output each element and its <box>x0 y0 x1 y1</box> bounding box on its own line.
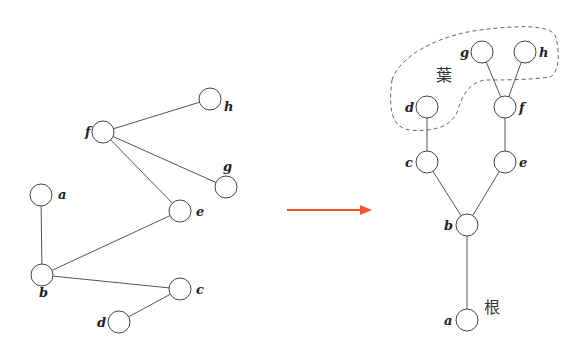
left-node-a <box>30 184 52 206</box>
left-node-label-d: d <box>97 315 106 330</box>
left-node-g <box>215 176 237 198</box>
transform-arrow <box>287 205 372 215</box>
right-node-label-d: d <box>405 100 414 115</box>
right-node-label-b: b <box>444 218 453 233</box>
right-node-b <box>456 214 478 236</box>
left-node-c <box>169 278 191 300</box>
right-node-label-c: c <box>405 155 413 170</box>
left-edge-a-b <box>41 195 42 275</box>
left-node-d <box>108 311 130 333</box>
right-node-h <box>514 41 536 63</box>
right-node-f <box>494 96 516 118</box>
diagram-canvas: abcdefgh abcdefgh 葉 根 <box>0 0 580 353</box>
right-tree-edges <box>427 52 525 320</box>
leaf-label: 葉 <box>436 66 452 85</box>
right-node-e <box>494 151 516 173</box>
left-node-label-c: c <box>196 282 204 297</box>
right-node-label-h: h <box>539 45 548 60</box>
left-node-f <box>92 121 114 143</box>
right-node-c <box>416 151 438 173</box>
left-edge-b-c <box>42 275 180 289</box>
left-node-label-h: h <box>224 99 233 114</box>
right-node-label-e: e <box>519 155 527 170</box>
left-edge-e-f <box>103 132 180 211</box>
right-node-label-g: g <box>460 45 469 60</box>
right-tree-nodes: abcdefgh <box>405 41 548 331</box>
left-node-h <box>199 88 221 110</box>
left-node-b <box>31 264 53 286</box>
right-node-g <box>471 41 493 63</box>
right-node-label-a: a <box>444 313 452 328</box>
left-node-label-e: e <box>196 204 204 219</box>
right-node-a <box>456 309 478 331</box>
arrow-head-icon <box>360 205 372 215</box>
root-label: 根 <box>484 298 500 317</box>
left-edge-f-g <box>103 132 226 187</box>
left-graph-nodes: abcdefgh <box>30 88 237 333</box>
left-edge-f-h <box>103 99 210 132</box>
left-node-label-g: g <box>223 159 232 174</box>
left-node-label-a: a <box>58 187 66 202</box>
right-node-label-f: f <box>518 100 527 115</box>
left-edge-b-e <box>42 211 180 275</box>
right-node-d <box>416 96 438 118</box>
left-node-label-b: b <box>39 285 48 300</box>
leaf-region-outline <box>391 27 559 131</box>
diagram-svg: abcdefgh abcdefgh 葉 根 <box>0 0 580 353</box>
left-node-e <box>169 200 191 222</box>
